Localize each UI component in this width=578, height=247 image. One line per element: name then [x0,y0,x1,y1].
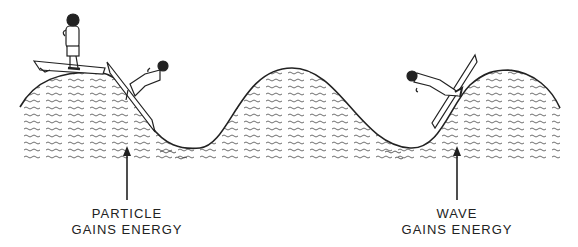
label-line-1: PARTICLE [66,206,188,222]
label-line-2: GAINS ENERGY [396,222,518,238]
arrow-left [123,146,131,200]
label-line-1: WAVE [396,206,518,222]
wave-gains-energy-label: WAVE GAINS ENERGY [396,206,518,238]
surfer-standing-on-board [34,14,105,74]
particle-gains-energy-label: PARTICLE GAINS ENERGY [66,206,188,238]
arrow-right [453,146,461,200]
water-ripples [20,68,560,160]
label-line-2: GAINS ENERGY [66,222,188,238]
